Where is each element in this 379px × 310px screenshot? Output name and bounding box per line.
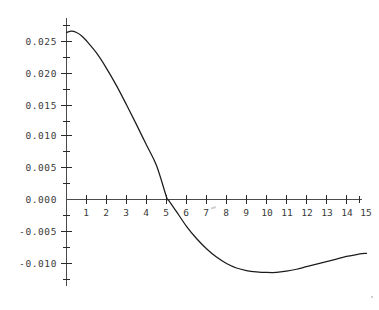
y-tick-label: 0.010 bbox=[25, 130, 57, 141]
y-tick-label: -0.005 bbox=[19, 226, 57, 237]
x-tick-label: 4 bbox=[143, 207, 149, 218]
y-tick-label: 0.000 bbox=[25, 194, 57, 205]
y-axis-tick-labels: 0.025 0.020 0.015 0.010 0.005 0.000 -0.0… bbox=[19, 36, 57, 269]
corner-speck-icon bbox=[371, 296, 373, 298]
stray-mark-icon bbox=[211, 206, 216, 210]
y-tick-label: -0.010 bbox=[19, 258, 57, 269]
y-tick-label: 0.005 bbox=[25, 162, 57, 173]
x-tick-label: 14 bbox=[341, 207, 353, 218]
x-tick-label: 6 bbox=[183, 207, 189, 218]
x-tick-label: 9 bbox=[243, 207, 249, 218]
x-tick-label: 10 bbox=[261, 207, 273, 218]
data-series-line bbox=[67, 31, 367, 272]
x-axis-tick-labels: 1 2 3 4 5 6 7 8 9 10 11 12 13 14 15 bbox=[83, 207, 372, 218]
x-tick-label: 3 bbox=[123, 207, 129, 218]
x-tick-label: 5 bbox=[163, 207, 169, 218]
x-tick-label: 12 bbox=[301, 207, 312, 218]
x-tick-label: 2 bbox=[103, 207, 109, 218]
x-tick-label: 11 bbox=[281, 207, 293, 218]
line-chart: 0.025 0.020 0.015 0.010 0.005 0.000 -0.0… bbox=[0, 0, 379, 310]
x-tick-label: 13 bbox=[321, 207, 332, 218]
y-tick-label: 0.025 bbox=[25, 36, 57, 47]
chart-container: 0.025 0.020 0.015 0.010 0.005 0.000 -0.0… bbox=[0, 0, 379, 310]
y-tick-label: 0.020 bbox=[25, 68, 57, 79]
x-tick-label: 7 bbox=[203, 207, 209, 218]
x-tick-label: 15 bbox=[360, 207, 371, 218]
y-tick-label: 0.015 bbox=[25, 100, 57, 111]
x-tick-label: 1 bbox=[83, 207, 89, 218]
x-tick-label: 8 bbox=[223, 207, 229, 218]
